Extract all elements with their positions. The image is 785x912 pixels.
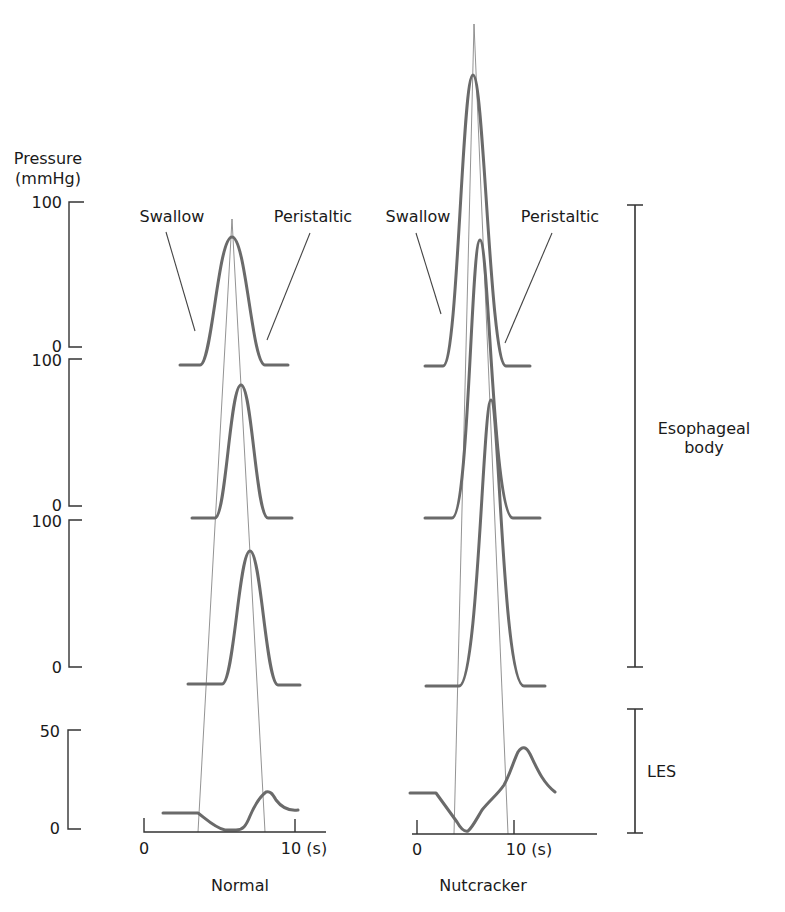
esophageal-body-label-line1: Esophageal bbox=[658, 419, 751, 438]
nutcracker-trace-body-3 bbox=[426, 400, 545, 686]
normal-trace-les bbox=[163, 792, 298, 830]
scale-bracket-body-1: 100 0 bbox=[31, 193, 84, 356]
normal-panel-title: Normal bbox=[211, 876, 269, 895]
scale-1-top-label: 100 bbox=[31, 193, 62, 212]
nutcracker-peristaltic-pointer bbox=[505, 233, 552, 343]
nutcracker-swallow-label: Swallow bbox=[386, 207, 451, 226]
normal-peristaltic-label: Peristaltic bbox=[274, 207, 352, 226]
y-axis-title-unit: (mmHg) bbox=[15, 169, 81, 188]
normal-trace-body-3 bbox=[188, 551, 300, 685]
les-bracket bbox=[627, 709, 643, 833]
scale-3-bottom-label: 0 bbox=[52, 658, 62, 677]
esophageal-body-label-line2: body bbox=[684, 438, 724, 457]
region-les: LES bbox=[627, 709, 676, 833]
nutcracker-peristaltic-label: Peristaltic bbox=[521, 207, 599, 226]
nutcracker-panel-title: Nutcracker bbox=[439, 876, 527, 895]
normal-swallow-pointer bbox=[166, 232, 195, 331]
scale-3-top-label: 100 bbox=[31, 512, 62, 531]
y-axis-title-pressure: Pressure bbox=[14, 149, 82, 168]
panel-nutcracker: Swallow Peristaltic 0 10 (s) Nutcracker bbox=[386, 24, 600, 895]
les-scale-bottom-label: 0 bbox=[50, 819, 60, 838]
les-scale-top-label: 50 bbox=[40, 722, 60, 741]
scale-bracket-body-2: 100 0 bbox=[31, 351, 82, 515]
scale-2-top-label: 100 bbox=[31, 351, 62, 370]
nutcracker-x-label-0: 0 bbox=[412, 840, 422, 859]
normal-x-label-0: 0 bbox=[139, 839, 149, 858]
scale-bracket-body-3: 100 0 bbox=[31, 512, 82, 677]
nutcracker-x-label-10: 10 (s) bbox=[506, 840, 552, 859]
normal-peristaltic-pointer bbox=[267, 233, 310, 340]
nutcracker-swallow-pointer bbox=[416, 233, 441, 314]
les-label: LES bbox=[647, 762, 676, 781]
nutcracker-trace-les bbox=[410, 748, 555, 831]
normal-x-label-10: 10 (s) bbox=[281, 839, 327, 858]
scale-bracket-les: 50 0 bbox=[40, 722, 81, 838]
panel-normal: Swallow Peristaltic 0 10 (s) Normal bbox=[139, 207, 352, 895]
normal-swallow-label: Swallow bbox=[140, 207, 205, 226]
region-esophageal-body: Esophageal body bbox=[627, 205, 750, 667]
normal-peristaltic-guide-line bbox=[232, 219, 265, 832]
esophageal-manometry-diagram: Pressure (mmHg) 100 0 100 0 100 0 50 0 S… bbox=[0, 0, 785, 912]
esophageal-body-bracket bbox=[627, 205, 643, 667]
nutcracker-peristaltic-guide-line bbox=[474, 24, 508, 834]
